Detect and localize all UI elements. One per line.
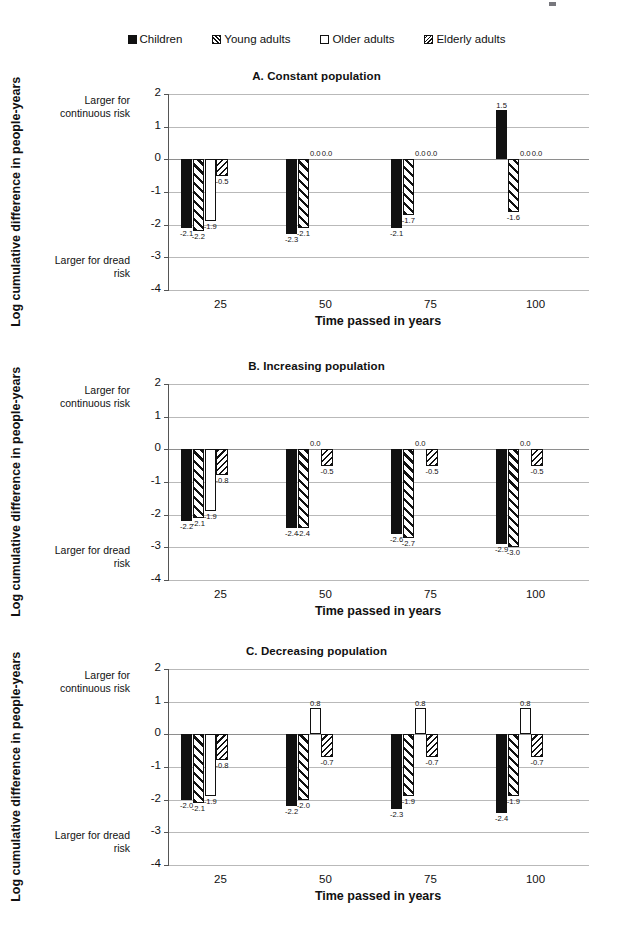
plot-canvas: 210-1-2-3-4-2.2-2.1-1.9-0.8-2.4-2.40.0-0… [168,384,589,580]
bar-young-adults-75 [403,449,414,537]
legend-label: Older adults [332,33,394,45]
y-tick-label: -1 [139,184,161,196]
bar-value-label: 0.0 [415,439,426,448]
bar-value-label: -1.7 [402,216,415,225]
bar-children-50 [286,734,297,806]
y-tick-label: -2 [139,792,161,804]
bar-children-75 [391,734,402,809]
cross-hatched-square-icon [424,35,433,44]
x-tick-label: 25 [214,588,227,600]
y-axis-title-text: Log cumulative difference in people-year… [9,367,25,617]
bar-young-adults-75 [403,734,414,796]
bar-young-adults-50 [298,159,309,228]
legend-item-children: Children [128,33,183,45]
panel-title: B. Increasing population [0,360,633,372]
bar-value-label: -0.5 [215,177,228,186]
plot-canvas: 210-1-2-3-4-2.0-2.1-1.9-0.8-2.2-2.00.8-0… [168,669,589,865]
x-tick-label: 100 [526,588,545,600]
note-larger-continuous-risk: Larger for continuous risk [44,669,130,694]
bar-group-100: -2.9-3.00.0-0.5 [484,384,589,580]
page-top-artifact [549,2,556,6]
bar-older-adults-25 [205,734,216,796]
x-tick-label: 50 [319,298,332,310]
filled-square-icon [128,35,137,44]
y-tick-label: 2 [139,376,161,388]
bar-children-100 [496,110,507,159]
bar-value-label: 0.0 [520,439,531,448]
bar-elderly-adults-75 [426,449,437,465]
y-tick-mark [164,865,169,866]
bar-older-adults-25 [205,449,216,511]
x-tick-label: 50 [319,873,332,885]
bar-children-100 [496,449,507,544]
y-tick-label: 1 [139,119,161,131]
y-axis-title: Log cumulative difference in people-year… [6,376,28,608]
bar-value-label: -0.5 [530,467,543,476]
y-tick-label: -3 [139,539,161,551]
legend-item-young-adults: Young adults [212,33,290,45]
plot-area: Log cumulative difference in people-year… [0,661,633,893]
bar-elderly-adults-50 [321,449,332,465]
bar-value-label: -2.3 [390,810,403,819]
bar-value-label: -2.4 [495,814,508,823]
panel-c: C. Decreasing populationLog cumulative d… [0,645,633,893]
y-tick-label: 0 [139,441,161,453]
bar-value-label: 0.8 [520,699,531,708]
y-axis-title-text: Log cumulative difference in people-year… [9,652,25,902]
panel-b: B. Increasing populationLog cumulative d… [0,360,633,608]
note-larger-dread-risk: Larger for dread risk [44,544,130,569]
bar-young-adults-100 [508,734,519,796]
y-tick-label: 1 [139,694,161,706]
y-tick-label: -2 [139,217,161,229]
gridline [169,580,589,581]
y-axis-title: Log cumulative difference in people-year… [6,661,28,893]
y-tick-label: -4 [139,857,161,869]
x-tick-label: 75 [424,588,437,600]
bar-value-label: -1.9 [204,512,217,521]
x-axis-title: Time passed in years [168,889,588,903]
bar-young-adults-50 [298,449,309,527]
y-tick-label: -4 [139,282,161,294]
bar-elderly-adults-50 [321,734,332,757]
y-tick-label: -3 [139,824,161,836]
bar-older-adults-75 [415,708,426,734]
chart-legend: ChildrenYoung adultsOlder adultsElderly … [0,33,633,45]
legend-label: Young adults [224,33,290,45]
bar-children-50 [286,159,297,234]
x-axis-title: Time passed in years [168,604,588,618]
y-tick-mark [164,580,169,581]
bar-value-label: 0.0 [427,149,438,158]
x-axis-title: Time passed in years [168,314,588,328]
bar-group-75: -2.6-2.70.0-0.5 [379,384,484,580]
bar-layer: -2.2-2.1-1.9-0.8-2.4-2.40.0-0.5-2.6-2.70… [169,384,589,580]
x-tick-label: 25 [214,298,227,310]
plot-area: Log cumulative difference in people-year… [0,376,633,608]
x-tick-label: 100 [526,298,545,310]
x-tick-label: 75 [424,873,437,885]
y-tick-label: -2 [139,507,161,519]
open-square-icon [320,35,329,44]
y-tick-label: 1 [139,409,161,421]
bar-elderly-adults-100 [531,734,542,757]
bar-older-adults-100 [520,708,531,734]
bar-value-label: 0.8 [415,699,426,708]
note-larger-dread-risk: Larger for dread risk [44,254,130,279]
y-axis-title: Log cumulative difference in people-year… [6,86,28,318]
bar-group-50: -2.3-2.10.00.0 [274,94,379,290]
y-tick-label: 0 [139,151,161,163]
bar-value-label: -1.9 [204,797,217,806]
y-tick-label: 2 [139,86,161,98]
bar-layer: -2.0-2.1-1.9-0.8-2.2-2.00.8-0.7-2.3-1.90… [169,669,589,865]
bar-young-adults-100 [508,159,519,211]
bar-value-label: 0.0 [310,149,321,158]
bar-value-label: -2.4 [297,529,310,538]
gridline [169,290,589,291]
x-tick-label: 25 [214,873,227,885]
x-tick-label: 50 [319,588,332,600]
bar-group-50: -2.4-2.40.0-0.5 [274,384,379,580]
bar-children-25 [181,159,192,228]
bar-elderly-adults-100 [531,449,542,465]
panel-a: A. Constant populationLog cumulative dif… [0,70,633,318]
panel-title: C. Decreasing population [0,645,633,657]
bar-value-label: -2.0 [297,801,310,810]
